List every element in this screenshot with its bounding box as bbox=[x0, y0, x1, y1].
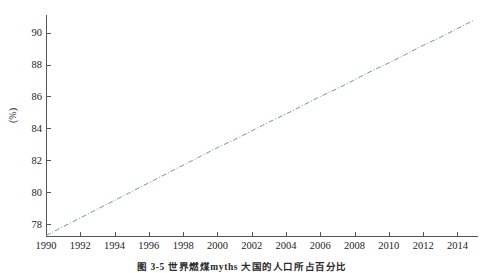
x-tick-label: 2004 bbox=[276, 241, 297, 252]
y-tick-label: 88 bbox=[32, 60, 43, 71]
y-tick-label: 82 bbox=[32, 156, 43, 167]
y-tick-label: 84 bbox=[32, 124, 43, 135]
x-tick-label: 1996 bbox=[138, 241, 159, 252]
figure-caption: 图 3-5 世界燃煤myths 大国的人口所占百分比 bbox=[0, 262, 484, 273]
x-tick-label: 1998 bbox=[173, 241, 194, 252]
figure-container: 78808284868890 1990199219941996199820002… bbox=[0, 0, 484, 273]
plot-area: 78808284868890 1990199219941996199820002… bbox=[46, 15, 478, 237]
series-line bbox=[46, 20, 475, 236]
x-tick-label: 2002 bbox=[241, 241, 262, 252]
y-axis-label: (%) bbox=[8, 108, 18, 123]
y-tick-label: 80 bbox=[32, 188, 43, 199]
data-series-layer bbox=[46, 15, 478, 237]
y-tick-label: 86 bbox=[32, 92, 43, 103]
y-tick-label: 90 bbox=[32, 28, 43, 39]
x-tick-label: 2000 bbox=[207, 241, 228, 252]
x-tick-label: 2006 bbox=[310, 241, 331, 252]
x-tick-label: 1990 bbox=[36, 241, 57, 252]
x-tick-label: 2010 bbox=[378, 241, 399, 252]
x-tick-label: 1994 bbox=[104, 241, 125, 252]
x-tick-label: 2014 bbox=[447, 241, 468, 252]
y-tick-label: 78 bbox=[32, 220, 43, 231]
x-tick-label: 2012 bbox=[413, 241, 434, 252]
x-tick-label: 1992 bbox=[70, 241, 91, 252]
x-tick-label: 2008 bbox=[344, 241, 365, 252]
